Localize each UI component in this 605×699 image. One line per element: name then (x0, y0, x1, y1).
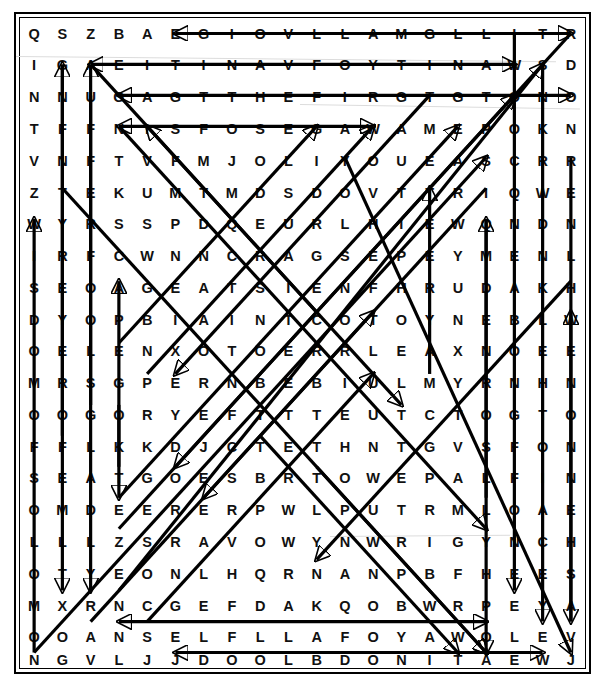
grid-letter: L (48, 526, 76, 558)
grid-letter: O (161, 463, 189, 495)
grid-letter: T (472, 82, 500, 114)
grid-letter: L (274, 145, 302, 177)
grid-letter: H (387, 272, 415, 304)
grid-letter: I (331, 82, 359, 114)
grid-letter: F (444, 558, 472, 590)
grid-letter: V (444, 431, 472, 463)
grid-letter: P (161, 209, 189, 241)
grid-letter: T (274, 304, 302, 336)
grid-letter: E (48, 463, 76, 495)
grid-letter: T (387, 399, 415, 431)
grid-letter: L (331, 18, 359, 50)
grid-letter: R (161, 495, 189, 527)
grid-letter: H (557, 272, 585, 304)
grid-letter: L (472, 18, 500, 50)
grid-letter: O (246, 336, 274, 368)
grid-letter: W (133, 240, 161, 272)
grid-letter: L (500, 622, 528, 654)
grid-letter: F (20, 431, 48, 463)
grid-letter: D (190, 209, 218, 241)
grid-letter: L (557, 240, 585, 272)
grid-letter: E (48, 272, 76, 304)
grid-letter: O (500, 113, 528, 145)
grid-letter: P (416, 463, 444, 495)
grid-letter: T (303, 399, 331, 431)
grid-letter: R (557, 18, 585, 50)
grid-letter: M (20, 590, 48, 622)
grid-letter: A (387, 113, 415, 145)
grid-letter: H (218, 558, 246, 590)
grid-letter: K (105, 177, 133, 209)
grid-letter: N (529, 240, 557, 272)
grid-letter: R (48, 368, 76, 400)
grid-letter: A (359, 18, 387, 50)
grid-letter: L (303, 495, 331, 527)
grid-letter: L (472, 463, 500, 495)
grid-letter: O (359, 653, 387, 668)
grid-letter: A (274, 240, 302, 272)
grid-letter: E (274, 113, 302, 145)
grid-letter: M (48, 495, 76, 527)
grid-letter: Y (48, 304, 76, 336)
grid-letter: G (500, 399, 528, 431)
grid-letter: A (133, 82, 161, 114)
grid-letter: E (48, 336, 76, 368)
grid-letter: R (274, 558, 302, 590)
grid-letter: N (246, 304, 274, 336)
grid-letter: E (161, 272, 189, 304)
grid-letter: N (48, 82, 76, 114)
word-search-puzzle: QSZBAEGIOVLLAMGLLITRIGAEITINAVFOYTINAWSD… (0, 0, 605, 699)
grid-letter: E (246, 209, 274, 241)
grid-letter: I (20, 50, 48, 82)
grid-letter: K (303, 590, 331, 622)
grid-letter: E (529, 622, 557, 654)
grid-letter: N (303, 558, 331, 590)
grid-letter: T (303, 431, 331, 463)
grid-letter: G (133, 272, 161, 304)
grid-letter: W (557, 304, 585, 336)
grid-letter: L (303, 18, 331, 50)
grid-letter: I (133, 113, 161, 145)
grid-letter: A (77, 622, 105, 654)
grid-letter: C (105, 240, 133, 272)
grid-letter: O (246, 145, 274, 177)
grid-letter: N (105, 622, 133, 654)
grid-letter: O (557, 82, 585, 114)
grid-letter: C (529, 526, 557, 558)
grid-letter: E (416, 209, 444, 241)
grid-letter: S (529, 50, 557, 82)
grid-letter: A (190, 304, 218, 336)
grid-letter: R (48, 240, 76, 272)
grid-letter: S (133, 526, 161, 558)
grid-letter: N (218, 50, 246, 82)
grid-letter: H (359, 209, 387, 241)
grid-letter: G (77, 399, 105, 431)
grid-letter: O (331, 304, 359, 336)
grid-letter: H (557, 526, 585, 558)
grid-letter: E (444, 113, 472, 145)
grid-letter: T (387, 50, 415, 82)
grid-letter: G (48, 653, 76, 668)
grid-letter: V (133, 145, 161, 177)
grid-letter: E (557, 177, 585, 209)
grid-letter: P (246, 495, 274, 527)
grid-letter: U (359, 495, 387, 527)
grid-letter: I (500, 18, 528, 50)
grid-letter: O (246, 526, 274, 558)
grid-letter: L (444, 18, 472, 50)
grid-letter: L (190, 622, 218, 654)
grid-letter: B (105, 18, 133, 50)
grid-letter: T (190, 177, 218, 209)
grid-letter: M (472, 240, 500, 272)
grid-letter: Y (444, 240, 472, 272)
grid-letter: Y (416, 304, 444, 336)
grid-letter: F (331, 622, 359, 654)
grid-letter: B (246, 463, 274, 495)
grid-letter: S (557, 558, 585, 590)
grid-letter: F (48, 113, 76, 145)
grid-letter: L (105, 653, 133, 668)
grid-letter: G (387, 82, 415, 114)
grid-letter: Q (472, 209, 500, 241)
grid-letter: T (387, 495, 415, 527)
grid-letter: O (557, 399, 585, 431)
